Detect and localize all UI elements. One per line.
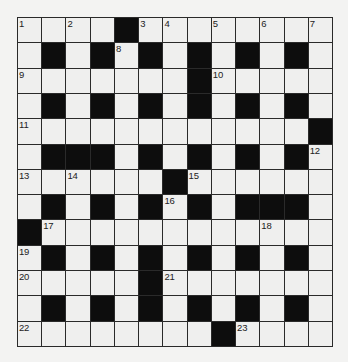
crossword-cell[interactable] — [163, 220, 186, 244]
crossword-cell[interactable] — [66, 296, 89, 320]
crossword-cell[interactable] — [285, 271, 308, 295]
crossword-cell[interactable] — [163, 94, 186, 118]
crossword-cell[interactable] — [236, 18, 259, 42]
crossword-cell[interactable] — [42, 69, 65, 93]
crossword-cell[interactable] — [115, 246, 138, 270]
crossword-cell[interactable] — [236, 220, 259, 244]
crossword-cell[interactable] — [212, 43, 235, 67]
crossword-cell[interactable] — [188, 271, 211, 295]
crossword-cell[interactable] — [42, 18, 65, 42]
crossword-cell[interactable] — [66, 220, 89, 244]
crossword-cell[interactable] — [285, 69, 308, 93]
crossword-cell[interactable] — [66, 271, 89, 295]
crossword-cell[interactable]: 2 — [66, 18, 89, 42]
crossword-cell[interactable] — [260, 170, 283, 194]
crossword-cell[interactable]: 12 — [309, 145, 332, 169]
crossword-cell[interactable] — [91, 69, 114, 93]
crossword-cell[interactable] — [139, 170, 162, 194]
crossword-cell[interactable] — [212, 246, 235, 270]
crossword-cell[interactable] — [260, 271, 283, 295]
crossword-cell[interactable]: 18 — [260, 220, 283, 244]
crossword-cell[interactable] — [309, 43, 332, 67]
crossword-cell[interactable]: 23 — [236, 322, 259, 346]
crossword-cell[interactable] — [42, 271, 65, 295]
crossword-cell[interactable] — [115, 119, 138, 143]
crossword-cell[interactable] — [163, 145, 186, 169]
crossword-cell[interactable] — [91, 119, 114, 143]
crossword-cell[interactable]: 21 — [163, 271, 186, 295]
crossword-cell[interactable] — [18, 94, 41, 118]
crossword-cell[interactable] — [91, 322, 114, 346]
crossword-cell[interactable] — [115, 296, 138, 320]
crossword-cell[interactable] — [309, 170, 332, 194]
crossword-cell[interactable] — [42, 322, 65, 346]
crossword-cell[interactable]: 20 — [18, 271, 41, 295]
crossword-cell[interactable] — [18, 195, 41, 219]
crossword-cell[interactable] — [42, 119, 65, 143]
crossword-cell[interactable] — [115, 195, 138, 219]
crossword-cell[interactable] — [139, 119, 162, 143]
crossword-cell[interactable] — [212, 170, 235, 194]
crossword-cell[interactable] — [236, 69, 259, 93]
crossword-cell[interactable] — [66, 94, 89, 118]
crossword-cell[interactable] — [91, 18, 114, 42]
crossword-cell[interactable] — [139, 220, 162, 244]
crossword-cell[interactable] — [212, 296, 235, 320]
crossword-cell[interactable] — [212, 145, 235, 169]
crossword-cell[interactable]: 17 — [42, 220, 65, 244]
crossword-cell[interactable] — [66, 195, 89, 219]
crossword-cell[interactable] — [285, 220, 308, 244]
crossword-cell[interactable] — [309, 296, 332, 320]
crossword-cell[interactable]: 13 — [18, 170, 41, 194]
crossword-cell[interactable] — [309, 322, 332, 346]
crossword-cell[interactable] — [115, 322, 138, 346]
crossword-cell[interactable] — [260, 246, 283, 270]
crossword-cell[interactable] — [260, 94, 283, 118]
crossword-cell[interactable]: 8 — [115, 43, 138, 67]
crossword-cell[interactable] — [236, 170, 259, 194]
crossword-cell[interactable] — [285, 119, 308, 143]
crossword-cell[interactable] — [188, 220, 211, 244]
crossword-cell[interactable] — [212, 220, 235, 244]
crossword-cell[interactable] — [188, 322, 211, 346]
crossword-cell[interactable] — [260, 69, 283, 93]
crossword-cell[interactable] — [260, 145, 283, 169]
crossword-cell[interactable] — [188, 18, 211, 42]
crossword-cell[interactable] — [115, 69, 138, 93]
crossword-cell[interactable] — [260, 119, 283, 143]
crossword-cell[interactable] — [115, 220, 138, 244]
crossword-cell[interactable] — [260, 296, 283, 320]
crossword-cell[interactable] — [115, 170, 138, 194]
crossword-cell[interactable]: 7 — [309, 18, 332, 42]
crossword-cell[interactable] — [163, 246, 186, 270]
crossword-cell[interactable]: 16 — [163, 195, 186, 219]
crossword-cell[interactable] — [66, 69, 89, 93]
crossword-cell[interactable] — [163, 43, 186, 67]
crossword-cell[interactable] — [285, 170, 308, 194]
crossword-cell[interactable] — [285, 322, 308, 346]
crossword-cell[interactable]: 5 — [212, 18, 235, 42]
crossword-cell[interactable] — [42, 170, 65, 194]
crossword-cell[interactable]: 19 — [18, 246, 41, 270]
crossword-cell[interactable] — [139, 69, 162, 93]
crossword-cell[interactable] — [115, 145, 138, 169]
crossword-cell[interactable] — [163, 322, 186, 346]
crossword-cell[interactable] — [212, 119, 235, 143]
crossword-cell[interactable] — [236, 271, 259, 295]
crossword-cell[interactable] — [66, 43, 89, 67]
crossword-cell[interactable]: 10 — [212, 69, 235, 93]
crossword-cell[interactable] — [18, 296, 41, 320]
crossword-cell[interactable] — [309, 220, 332, 244]
crossword-cell[interactable] — [91, 220, 114, 244]
crossword-cell[interactable] — [91, 271, 114, 295]
crossword-cell[interactable] — [236, 119, 259, 143]
crossword-cell[interactable] — [139, 322, 162, 346]
crossword-cell[interactable] — [115, 94, 138, 118]
crossword-cell[interactable] — [18, 43, 41, 67]
crossword-cell[interactable] — [91, 170, 114, 194]
crossword-cell[interactable] — [163, 296, 186, 320]
crossword-cell[interactable]: 4 — [163, 18, 186, 42]
crossword-cell[interactable]: 9 — [18, 69, 41, 93]
crossword-cell[interactable] — [188, 119, 211, 143]
crossword-cell[interactable] — [163, 69, 186, 93]
